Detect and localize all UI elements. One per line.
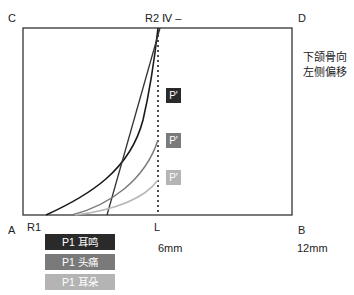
- legend-item-tinnitus: P1 耳鸣: [45, 234, 115, 250]
- value-6mm: 6mm: [158, 242, 182, 254]
- value-12mm: 12mm: [297, 242, 328, 254]
- side-note-line2: 左侧偏移: [303, 65, 347, 80]
- l-label: L: [154, 221, 160, 233]
- point-label-light: P': [166, 170, 181, 185]
- corner-label-b: B: [298, 224, 305, 236]
- legend-item-headache: P1 头痛: [45, 254, 115, 270]
- side-note: 下颌骨向 左侧偏移: [303, 50, 347, 80]
- r1-label: R1: [27, 221, 41, 233]
- corner-label-d: D: [298, 12, 306, 24]
- corner-label-a: A: [8, 224, 15, 236]
- top-marker-label: R2 Ⅳ –: [145, 12, 181, 24]
- legend-item-ear: P1 耳朵: [45, 274, 115, 290]
- side-note-line1: 下颌骨向: [303, 50, 347, 65]
- point-label-dark: P': [166, 88, 181, 103]
- curve-dark: [46, 28, 158, 215]
- curve-mid: [72, 140, 158, 215]
- corner-label-c: C: [8, 12, 16, 24]
- point-label-mid: P': [166, 133, 181, 148]
